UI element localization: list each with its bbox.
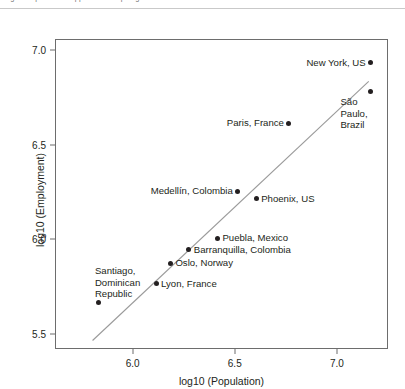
data-point-label: Barranquilla, Colombia: [194, 244, 291, 256]
y-tick-label: 7.0: [0, 45, 55, 56]
x-tick-label: 6.5: [228, 358, 242, 369]
y-axis-label: log10 (Employment): [34, 100, 46, 300]
data-point[interactable]: [254, 196, 259, 201]
data-point-label: Lyon, France: [161, 278, 217, 290]
data-point-label: Paris, France: [227, 117, 284, 129]
x-tick-label: 7.0: [330, 358, 344, 369]
y-tick-label: 6.0: [0, 234, 55, 245]
scatter-plot-figure: 7.06.56.05.5 6.06.57.0 log10 (Employment…: [0, 9, 405, 389]
plot-area: New York, USSão Paulo, BrazilParis, Fran…: [56, 40, 387, 348]
x-tick-mark: [132, 349, 133, 354]
data-point-label: Medellín, Colombia: [151, 185, 233, 197]
x-tick-mark: [336, 349, 337, 354]
plot-frame: New York, USSão Paulo, BrazilParis, Fran…: [55, 39, 388, 349]
data-point[interactable]: [154, 281, 159, 286]
y-tick-label: 6.5: [0, 139, 55, 150]
data-point-label: New York, US: [306, 57, 365, 69]
data-point[interactable]: [168, 261, 173, 266]
data-point-label: Oslo, Norway: [175, 257, 233, 269]
caption-text: Figure caption text clipped at the top e…: [4, 0, 203, 2]
data-point-label: Puebla, Mexico: [222, 233, 288, 245]
data-point-label: Santiago, Dominican Republic: [95, 265, 140, 300]
y-tick-label: 5.5: [0, 328, 55, 339]
data-point[interactable]: [215, 236, 220, 241]
x-tick-label: 6.0: [126, 358, 140, 369]
figure-caption-remnant: Figure caption text clipped at the top e…: [0, 0, 405, 7]
data-point-label: Phoenix, US: [261, 193, 314, 205]
x-axis-label: log10 (Population): [55, 375, 388, 387]
x-tick-mark: [234, 349, 235, 354]
data-point[interactable]: [368, 89, 373, 94]
data-point-label: São Paulo, Brazil: [340, 96, 367, 131]
